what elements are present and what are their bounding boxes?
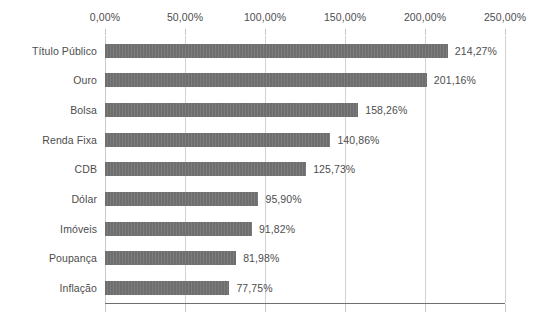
bar-and-value: 158,26% (105, 103, 407, 117)
bar-and-value: 95,90% (105, 192, 302, 206)
x-tick-mark-bottom (345, 304, 346, 312)
x-tick-mark (345, 29, 346, 35)
bar-row[interactable]: CDB125,73% (0, 155, 544, 185)
bar-and-value: 81,98% (105, 251, 279, 265)
bar[interactable] (105, 44, 448, 58)
bar-value-label: 140,86% (337, 134, 379, 146)
bar[interactable] (105, 222, 252, 236)
x-tick-label: 150,00% (324, 11, 366, 23)
bar-value-label: 125,73% (313, 163, 355, 175)
x-tick-label: 100,00% (244, 11, 286, 23)
x-tick-mark-bottom (105, 304, 106, 312)
x-tick-mark (505, 29, 506, 35)
x-tick-label: 250,00% (484, 11, 526, 23)
category-label: Renda Fixa (42, 134, 97, 146)
bar-and-value: 77,75% (105, 281, 273, 295)
x-tick-mark-bottom (505, 304, 506, 312)
category-label: Imóveis (60, 223, 97, 235)
bar[interactable] (105, 73, 427, 87)
bar[interactable] (105, 103, 358, 117)
bar-row[interactable]: Renda Fixa140,86% (0, 125, 544, 155)
bar-value-label: 81,98% (243, 252, 279, 264)
bar-row[interactable]: Imóveis91,82% (0, 214, 544, 244)
x-tick-mark-bottom (185, 304, 186, 312)
bar-value-label: 91,82% (259, 223, 295, 235)
category-label: Ouro (73, 74, 97, 86)
category-label: CDB (75, 163, 97, 175)
bar[interactable] (105, 251, 236, 265)
bar[interactable] (105, 162, 306, 176)
bar-row[interactable]: Dólar95,90% (0, 184, 544, 214)
x-tick-mark (185, 29, 186, 35)
x-tick-label: 50,00% (167, 11, 203, 23)
category-label: Poupança (49, 252, 97, 264)
bar[interactable] (105, 133, 330, 147)
x-tick-mark (425, 29, 426, 35)
bar-row[interactable]: Poupança81,98% (0, 244, 544, 274)
x-tick-mark (105, 29, 106, 35)
bar[interactable] (105, 281, 229, 295)
category-label: Inflação (59, 282, 97, 294)
bar-and-value: 91,82% (105, 222, 295, 236)
bar-value-label: 77,75% (236, 282, 272, 294)
bar-row[interactable]: Bolsa158,26% (0, 95, 544, 125)
x-tick-mark-bottom (425, 304, 426, 312)
bottom-axis-line (105, 303, 505, 304)
bar-row[interactable]: Inflação77,75% (0, 273, 544, 303)
x-tick-label: 0,00% (90, 11, 120, 23)
bar-value-label: 214,27% (455, 45, 497, 57)
bar-row[interactable]: Ouro201,16% (0, 66, 544, 96)
bar-row[interactable]: Título Público214,27% (0, 36, 544, 66)
bar-value-label: 95,90% (265, 193, 301, 205)
x-tick-mark-bottom (265, 304, 266, 312)
bar-and-value: 201,16% (105, 73, 476, 87)
bar-rows: Título Público214,27%Ouro201,16%Bolsa158… (0, 36, 544, 303)
bar-chart: 0,00%50,00%100,00%150,00%200,00%250,00% … (0, 0, 544, 324)
x-tick-label: 200,00% (404, 11, 446, 23)
x-axis: 0,00%50,00%100,00%150,00%200,00%250,00% (0, 0, 544, 36)
bar-and-value: 125,73% (105, 162, 355, 176)
bar-and-value: 214,27% (105, 44, 497, 58)
bar[interactable] (105, 192, 258, 206)
category-label: Dólar (71, 193, 97, 205)
category-label: Título Público (32, 45, 97, 57)
bar-value-label: 201,16% (434, 74, 476, 86)
category-label: Bolsa (70, 104, 97, 116)
x-tick-mark (265, 29, 266, 35)
bar-and-value: 140,86% (105, 133, 380, 147)
bar-value-label: 158,26% (365, 104, 407, 116)
